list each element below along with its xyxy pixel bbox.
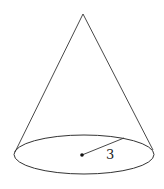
cone-right-slant-edge	[83, 14, 153, 150]
cone-left-slant-edge	[15, 14, 83, 152]
cone-diagram: 3	[0, 0, 164, 189]
cone-svg: 3	[0, 0, 164, 189]
radius-line	[82, 138, 124, 155]
base-center-point	[80, 153, 84, 157]
radius-label: 3	[106, 147, 114, 162]
